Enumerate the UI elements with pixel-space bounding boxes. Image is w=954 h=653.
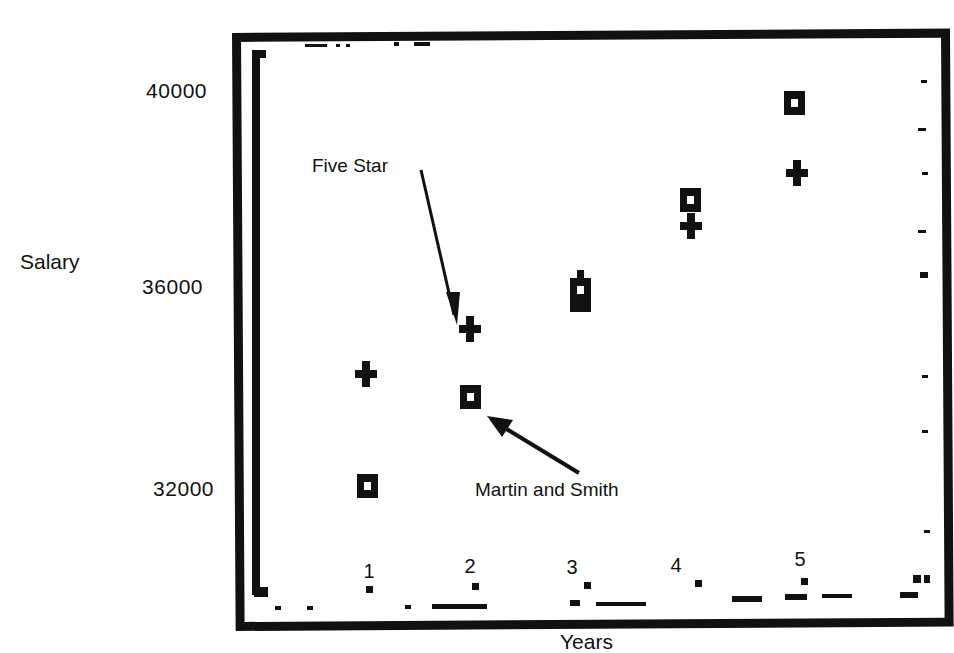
annotation-arrows (0, 0, 954, 640)
